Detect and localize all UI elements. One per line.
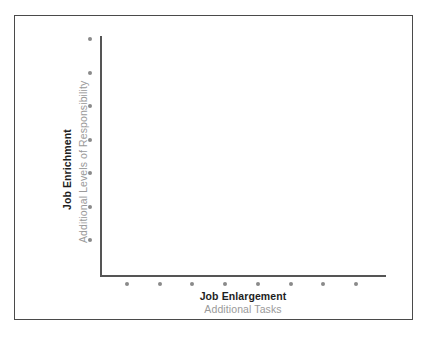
x-axis-marker-dot: [289, 282, 293, 286]
x-axis-marker-dot: [158, 282, 162, 286]
y-axis-title: Job Enrichment: [62, 129, 73, 210]
x-axis-title: Job Enlargement: [100, 290, 386, 302]
x-axis-marker-dot: [354, 282, 358, 286]
x-axis-marker-dot: [223, 282, 227, 286]
x-axis-marker-dot: [125, 282, 129, 286]
x-axis-label-group: Job Enlargement Additional Tasks: [100, 290, 386, 316]
x-axis-subtitle: Additional Tasks: [100, 303, 386, 315]
x-axis-marker-dot: [190, 282, 194, 286]
x-axis-marker-dot: [321, 282, 325, 286]
x-axis-line: [100, 275, 386, 277]
y-axis-subtitle: Additional Levels of Responsibility: [78, 81, 89, 243]
plot-area: Job Enrichment Additional Levels of Resp…: [15, 16, 412, 319]
diagram-frame: Job Enrichment Additional Levels of Resp…: [14, 15, 413, 320]
y-axis-line: [100, 36, 102, 277]
y-axis-label-group: Job Enrichment Additional Levels of Resp…: [15, 16, 100, 277]
x-axis-marker-dot: [256, 282, 260, 286]
